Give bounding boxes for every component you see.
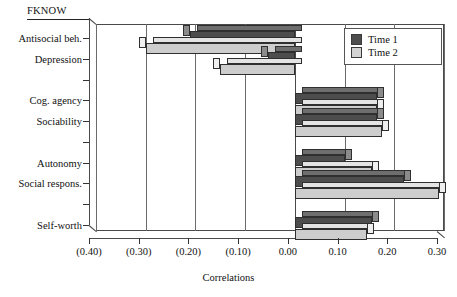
gridline (195, 24, 196, 231)
bar-side-face (382, 120, 389, 131)
y-axis-tick-label: Antisocial beh. (18, 33, 82, 44)
legend-swatch-series-2 (351, 47, 362, 58)
x-axis-tick-label: (0.10) (225, 246, 250, 257)
x-axis-tick (387, 238, 388, 244)
legend-item-time-1: Time 1 (351, 33, 435, 46)
bar-side-face (261, 46, 268, 57)
gridline (245, 24, 246, 231)
chart-container: FKNOW Antisocial beh.DepressionCog. agen… (0, 0, 457, 297)
x-axis-tick-label: (0.40) (76, 246, 101, 257)
chart-title: FKNOW (27, 5, 67, 16)
bar-series-2 (295, 126, 382, 137)
title-underline (27, 19, 90, 20)
x-axis-tick (437, 238, 438, 244)
y-axis-tick (83, 183, 89, 184)
plot-left-wall-edge (89, 18, 90, 225)
x-axis-tick-label: 0.00 (279, 246, 297, 257)
y-axis-tick-label: Social respons. (18, 178, 82, 189)
bar-series-2 (220, 64, 295, 75)
x-axis-tick (338, 238, 339, 244)
bar-front-face (295, 188, 439, 199)
y-axis-tick-label: Cog. agency (30, 95, 83, 106)
bar-side-face (345, 149, 352, 160)
legend-label-series-1: Time 1 (368, 34, 398, 45)
y-axis-tick (83, 163, 89, 164)
x-axis-tick (238, 238, 239, 244)
y-axis-tick (83, 100, 89, 101)
y-axis-tick-label: Self-worth (37, 220, 82, 231)
bar-series-2 (295, 188, 439, 199)
bar-side-face (183, 25, 190, 36)
bar-side-face (404, 170, 411, 181)
x-axis-tick-label: 0.10 (328, 246, 346, 257)
y-axis-tick-label: Autonomy (37, 158, 82, 169)
bar-series-2 (295, 229, 367, 240)
y-axis-tick-label: Depression (35, 54, 82, 65)
x-axis-tick-label: (0.30) (126, 246, 151, 257)
gridline (444, 24, 445, 231)
bar-side-face (377, 87, 384, 98)
y-axis-tick-label: Sociability (37, 116, 83, 127)
legend-label-series-2: Time 2 (368, 47, 398, 58)
x-axis-tick-label: 0.30 (428, 246, 446, 257)
legend-item-time-2: Time 2 (351, 46, 435, 59)
bar-side-face (367, 223, 374, 234)
y-axis-tick (83, 204, 89, 205)
y-axis-tick (83, 80, 89, 81)
bar-front-face (295, 229, 367, 240)
y-axis-tick (83, 121, 89, 122)
x-axis-tick (139, 238, 140, 244)
bar-side-face (139, 37, 146, 48)
y-axis-tick (83, 59, 89, 60)
plot-floor-front-edge (89, 238, 437, 239)
y-axis-tick (83, 225, 89, 226)
x-axis-tick (89, 238, 90, 244)
bar-front-face (295, 126, 382, 137)
y-axis-tick (83, 38, 89, 39)
bar-front-face (220, 64, 295, 75)
gridline (96, 24, 97, 231)
legend-swatch-series-1 (351, 34, 362, 45)
bar-side-face (439, 182, 446, 193)
y-axis-tick (83, 142, 89, 143)
x-axis-tick (288, 238, 289, 244)
x-axis-tick-label: 0.20 (378, 246, 396, 257)
legend: Time 1 Time 2 (344, 28, 442, 65)
gridline (146, 24, 147, 231)
bar-side-face (372, 211, 379, 222)
x-axis-tick (188, 238, 189, 244)
x-axis-title: Correlations (0, 272, 457, 283)
bar-side-face (213, 58, 220, 69)
bar-side-face (377, 108, 384, 119)
x-axis-tick-label: (0.20) (176, 246, 201, 257)
